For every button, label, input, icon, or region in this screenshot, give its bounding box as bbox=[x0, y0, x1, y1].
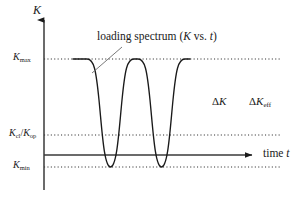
tick-label-kmin: Kmin bbox=[13, 160, 30, 170]
caption-var-k: K bbox=[183, 30, 191, 42]
kmax-subscript: max bbox=[20, 56, 31, 63]
delta-k-eff-subscript: eff bbox=[263, 101, 271, 109]
caption-text-end: ) bbox=[213, 30, 217, 42]
tick-label-kcl-kop: Kcl/Kop bbox=[9, 128, 36, 138]
loading-spectrum-curve bbox=[73, 59, 190, 167]
loading-spectrum-caption: loading spectrum (K vs. t) bbox=[97, 31, 217, 43]
kop-subscript: op bbox=[30, 132, 37, 139]
kcl-symbol: K bbox=[9, 127, 16, 138]
caption-text-mid: vs. bbox=[191, 30, 210, 42]
loading-spectrum-figure: K time t Kmax Kcl/Kop Kmin loading spect… bbox=[0, 0, 297, 199]
delta-k-symbol: K bbox=[219, 95, 226, 107]
x-axis-label-text: time bbox=[263, 147, 286, 159]
annotation-delta-k: ΔK bbox=[212, 96, 226, 107]
kmin-subscript: min bbox=[20, 164, 30, 171]
annotation-delta-k-eff: ΔKeff bbox=[249, 96, 271, 107]
tick-label-kmax: Kmax bbox=[13, 52, 31, 62]
y-axis-label: K bbox=[33, 4, 41, 16]
kmax-symbol: K bbox=[13, 51, 20, 62]
kop-symbol: K bbox=[23, 127, 30, 138]
kcl-subscript: cl bbox=[16, 132, 21, 139]
caption-text-lead: loading spectrum ( bbox=[97, 30, 183, 42]
caption-leader-line bbox=[92, 47, 122, 73]
x-axis-label-var: t bbox=[286, 147, 289, 159]
x-axis-label: time t bbox=[263, 148, 290, 160]
kmin-symbol: K bbox=[13, 159, 20, 170]
